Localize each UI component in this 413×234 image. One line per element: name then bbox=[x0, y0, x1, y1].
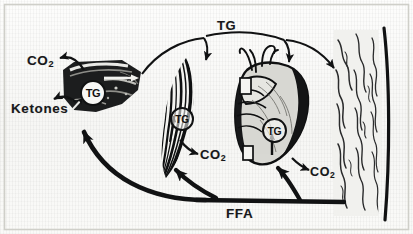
label-co2-liver: CO2 bbox=[27, 54, 54, 69]
ffa-trunk bbox=[196, 200, 344, 202]
vessel-stub-upper bbox=[240, 78, 251, 94]
diagram-svg bbox=[0, 0, 413, 234]
label-tg-circulating: TG bbox=[217, 19, 236, 32]
tg-marker-muscle: TG bbox=[170, 107, 194, 131]
ffa-to-liver bbox=[84, 132, 206, 200]
figure-canvas: CO2 Ketones TG CO2 CO2 FFA TG TG TG bbox=[0, 0, 413, 234]
organ-adipose bbox=[331, 28, 389, 220]
arrow-heart-to-co2 bbox=[292, 158, 309, 170]
vessel-stub-lower bbox=[243, 146, 253, 160]
ffa-to-muscle bbox=[176, 170, 216, 198]
tg-marker-heart: TG bbox=[262, 118, 287, 143]
label-ffa: FFA bbox=[226, 207, 253, 221]
ffa-to-heart bbox=[278, 168, 300, 200]
arrow-tg-to-adipose bbox=[286, 40, 334, 68]
label-co2-muscle: CO2 bbox=[200, 148, 226, 163]
tg-marker-liver: TG bbox=[80, 80, 106, 106]
arrow-tg-liver-to-muscle bbox=[142, 38, 207, 74]
organ-heart bbox=[233, 46, 309, 166]
label-co2-heart: CO2 bbox=[310, 166, 335, 180]
label-ketones: Ketones bbox=[11, 102, 68, 116]
